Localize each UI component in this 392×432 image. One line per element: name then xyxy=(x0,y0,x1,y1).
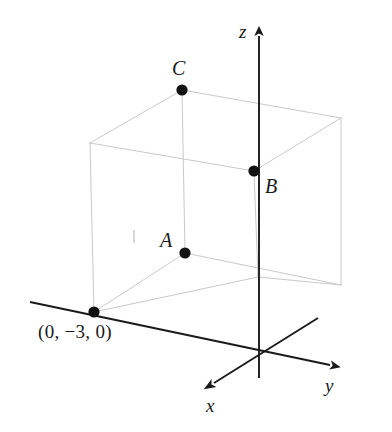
point-marker-origin-side xyxy=(88,306,99,317)
axis-label-x: x xyxy=(206,396,214,415)
point-label-B: B xyxy=(265,176,277,196)
cube-edge-top-mid-right xyxy=(254,118,341,171)
point-label-C: C xyxy=(172,58,185,78)
cube-edge-top-left-front xyxy=(90,90,182,143)
coordinate-system-figure: C B A (0, −3, 0) z y x xyxy=(0,0,392,432)
cube-edge-bot-left-front xyxy=(94,253,185,312)
x-axis xyxy=(214,318,318,383)
point-label-coordinate: (0, −3, 0) xyxy=(38,322,112,341)
axis-label-y: y xyxy=(325,376,333,395)
cube-edge-vert-front xyxy=(182,90,185,253)
axis-label-z: z xyxy=(239,22,246,41)
cube-wireframe xyxy=(90,90,341,312)
point-label-A: A xyxy=(160,230,172,250)
figure-canvas xyxy=(0,0,392,432)
point-marker-B xyxy=(248,165,259,176)
cube-edge-bot-mid-right xyxy=(258,277,341,285)
cube-edge-vert-left xyxy=(90,143,94,312)
point-marker-A xyxy=(179,247,190,258)
cube-edge-bot-front-mid xyxy=(185,253,341,285)
cube-edge-bot-left-mid xyxy=(94,277,258,312)
cube-edge-top-left-mid xyxy=(90,143,254,171)
point-marker-C xyxy=(176,84,187,95)
scan-speck-artifact xyxy=(133,230,135,243)
cube-edge-top-front-right xyxy=(182,90,341,118)
cube-edge-vert-mid xyxy=(254,171,258,277)
